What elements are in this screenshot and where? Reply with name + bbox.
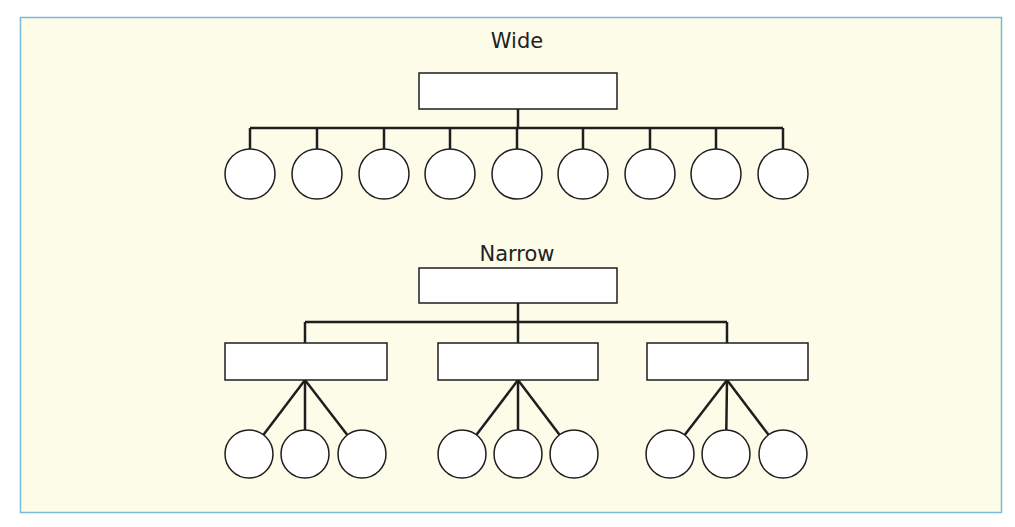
- narrow-middle-box: [647, 343, 808, 380]
- wide-child-node: [758, 149, 808, 199]
- narrow-leaf-node: [646, 430, 694, 478]
- narrow-leaf-node: [281, 430, 329, 478]
- narrow-leaf-nodes: [225, 430, 807, 478]
- wide-child-node: [425, 149, 475, 199]
- narrow-leaf-connector: [726, 380, 727, 430]
- wide-child-node: [292, 149, 342, 199]
- narrow-leaf-node: [225, 430, 273, 478]
- narrow-middle-boxes: [225, 343, 808, 380]
- narrow-root-box: [419, 268, 617, 303]
- wide-child-node: [691, 149, 741, 199]
- org-structure-diagram: Wide Narrow: [0, 0, 1015, 527]
- narrow-leaf-node: [702, 430, 750, 478]
- narrow-middle-box: [225, 343, 387, 380]
- wide-child-node: [359, 149, 409, 199]
- wide-root-box: [419, 73, 617, 109]
- narrow-middle-box: [438, 343, 598, 380]
- narrow-leaf-node: [759, 430, 807, 478]
- wide-child-node: [625, 149, 675, 199]
- narrow-leaf-node: [494, 430, 542, 478]
- wide-child-node: [558, 149, 608, 199]
- wide-child-node: [225, 149, 275, 199]
- narrow-label: Narrow: [479, 242, 554, 266]
- narrow-leaf-node: [338, 430, 386, 478]
- narrow-leaf-node: [438, 430, 486, 478]
- wide-child-nodes: [225, 149, 808, 199]
- wide-child-node: [492, 149, 542, 199]
- wide-label: Wide: [491, 29, 543, 53]
- narrow-leaf-node: [550, 430, 598, 478]
